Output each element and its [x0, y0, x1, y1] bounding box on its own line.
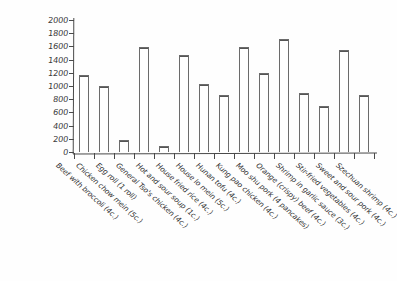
bar	[179, 55, 190, 152]
x-category-label: Sweet and sour pork (4c.)	[314, 162, 388, 228]
y-tick-label-1800: 1800	[47, 28, 68, 38]
bar	[339, 50, 350, 152]
bar	[119, 140, 130, 152]
bar	[159, 146, 170, 152]
y-tick-label-0: 0	[62, 147, 68, 157]
bar	[279, 39, 290, 152]
x-category-label: Moo shu pork (4 pancakes)	[234, 162, 311, 231]
bar	[99, 86, 110, 152]
x-tick-mark	[254, 153, 255, 159]
x-tick-mark	[274, 153, 275, 159]
x-tick-mark	[154, 153, 155, 159]
bar	[359, 95, 370, 152]
x-category-label: Hot and sour soup (1c.)	[134, 162, 202, 222]
y-tick-mark-1000	[69, 86, 74, 87]
y-tick-label-800: 800	[52, 94, 68, 104]
x-category-label: House lo mein (5c.)	[174, 162, 231, 213]
plot-area	[74, 20, 374, 152]
y-tick-mark-2000	[69, 20, 74, 21]
y-tick-label-600: 600	[52, 107, 68, 117]
x-axis-line	[73, 153, 377, 155]
x-category-label: House fried rice (4c.)	[154, 162, 215, 216]
x-tick-mark	[94, 153, 95, 159]
y-axis-tick-labels: 0200400600800100012001400160018002000	[0, 0, 68, 281]
bar	[79, 75, 90, 152]
x-category-label: Szechuan shrimp (4c.)	[334, 162, 397, 220]
y-tick-label-400: 400	[52, 121, 68, 131]
y-tick-mark-0	[69, 152, 74, 153]
x-tick-mark	[74, 153, 75, 159]
y-tick-mark-1400	[69, 60, 74, 61]
y-tick-mark-600	[69, 112, 74, 113]
y-tick-label-1000: 1000	[47, 81, 68, 91]
x-category-label: Egg roll (1 roll)	[94, 162, 138, 201]
x-tick-mark	[174, 153, 175, 159]
y-tick-label-200: 200	[52, 134, 68, 144]
chart-page: 0200400600800100012001400160018002000 Be…	[0, 0, 397, 281]
x-tick-mark	[214, 153, 215, 159]
bar	[239, 47, 250, 152]
x-tick-mark	[234, 153, 235, 159]
x-tick-mark	[134, 153, 135, 159]
bar	[219, 95, 230, 152]
y-tick-mark-1600	[69, 46, 74, 47]
x-category-label: Orange (crispy) beef (4c.)	[254, 162, 327, 228]
y-tick-mark-800	[69, 99, 74, 100]
x-tick-mark	[334, 153, 335, 159]
x-category-label: General Tso's chicken (4c.)	[114, 162, 190, 230]
bar	[319, 106, 330, 152]
y-tick-mark-1200	[69, 73, 74, 74]
x-category-label: Chicken chow mein (5c.)	[74, 162, 144, 225]
y-tick-mark-1800	[69, 33, 74, 34]
x-category-label: Kung pao chicken (4c.)	[214, 162, 280, 221]
y-tick-label-2000: 2000	[47, 15, 68, 25]
y-tick-label-1400: 1400	[47, 55, 68, 65]
x-tick-mark	[374, 153, 375, 159]
bar	[299, 93, 310, 152]
y-tick-mark-200	[69, 139, 74, 140]
y-tick-label-1200: 1200	[47, 68, 68, 78]
x-tick-mark	[314, 153, 315, 159]
x-category-label: Hunan tofu (4c.)	[194, 162, 243, 205]
x-tick-mark	[114, 153, 115, 159]
y-tick-mark-400	[69, 126, 74, 127]
x-tick-mark	[194, 153, 195, 159]
bar	[259, 73, 270, 152]
bar	[199, 84, 210, 152]
x-tick-mark	[294, 153, 295, 159]
x-category-label: Shrimp in garlic sauce (3c.)	[274, 162, 352, 231]
y-tick-label-1600: 1600	[47, 41, 68, 51]
x-category-label: Stir-fried vegetables (4c.)	[294, 162, 366, 227]
bar	[139, 47, 150, 152]
x-tick-mark	[354, 153, 355, 159]
